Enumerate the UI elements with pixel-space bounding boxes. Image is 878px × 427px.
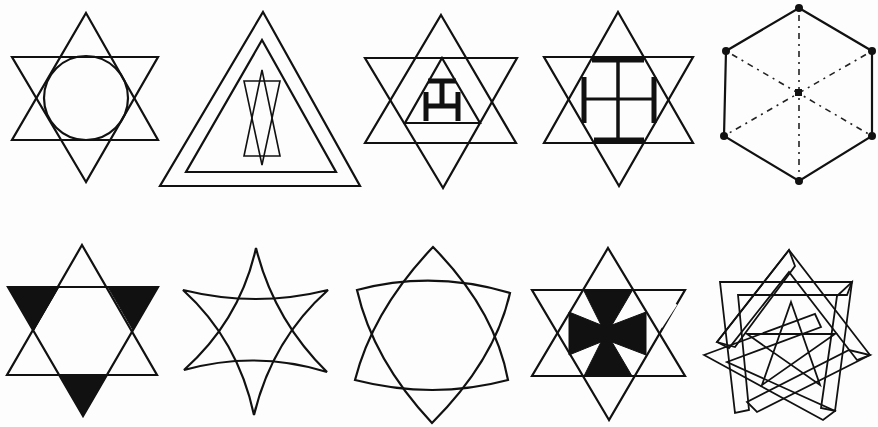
double-triangle-symbol: Nested triangles enclosing a narrow hexa… (150, 0, 370, 200)
quadruple-tau-icon (530, 0, 710, 200)
heptagram-icon (695, 230, 878, 427)
concave-star-icon (170, 230, 340, 427)
nested-triangle-icon (150, 0, 370, 200)
filled-hexagram-icon (0, 230, 180, 427)
heptagram-pentagram-symbol: Interlaced heptagram enclosing a pentagr… (695, 230, 878, 427)
triple-tau-icon (355, 0, 530, 200)
hexagon-radii-symbol: Hexagon with vertex dots and dotted radi… (700, 0, 878, 200)
hexagram-cross-symbol: Hexagram with filled cross (520, 230, 700, 427)
symbol-plate: Hexagram with inscribed circle Nested tr… (0, 0, 878, 427)
hexagram-quadruple-tau-symbol: Hexagram with four-armed tau cross (530, 0, 710, 200)
hexagon-icon (700, 0, 878, 200)
convex-hexagram-symbol: Hexagram with outward-curved edges (345, 230, 520, 427)
convex-star-icon (345, 230, 520, 427)
hexagram-filled-points-symbol: Hexagram with three filled points (0, 230, 180, 427)
maltese-cross-icon (520, 230, 700, 427)
concave-hexagram-symbol: Hexagram with inward-curved edges (170, 230, 340, 427)
hexagram-triple-tau-symbol: Hexagram with inner triangle containing … (355, 0, 530, 200)
